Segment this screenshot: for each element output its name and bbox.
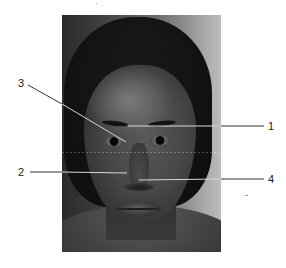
label-3: 3 xyxy=(18,78,24,89)
label-4: 4 xyxy=(268,174,274,185)
leader-lines xyxy=(0,0,286,268)
label-2: 2 xyxy=(18,167,24,178)
scan-speck-top xyxy=(96,3,97,4)
leader-line-3 xyxy=(28,85,62,104)
label-1: 1 xyxy=(268,121,274,132)
leader-line-4-on-photo xyxy=(139,179,221,180)
leader-line-3-on-photo xyxy=(62,104,126,142)
scan-speck xyxy=(245,195,248,196)
leader-line-2-on-photo xyxy=(62,172,127,173)
